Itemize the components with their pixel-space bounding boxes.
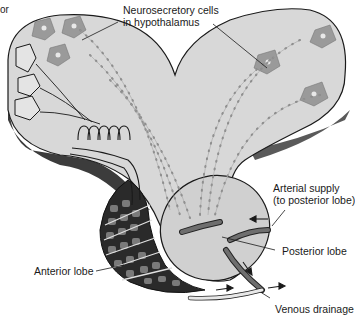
label-neurosecretory-line2: in hypothalamus xyxy=(123,16,219,28)
label-neurosecretory-cells: Neurosecretory cells in hypothalamus xyxy=(123,4,219,28)
label-posterior-lobe: Posterior lobe xyxy=(282,245,347,257)
label-neurosecretory-line1: Neurosecretory cells xyxy=(123,4,219,16)
label-arterial-supply: Arterial supply (to posterior lobe) xyxy=(273,182,355,206)
label-venous-drainage: Venous drainage xyxy=(275,303,354,315)
label-arterial-line1: Arterial supply xyxy=(273,182,355,194)
label-arterial-line2: (to posterior lobe) xyxy=(273,194,355,206)
label-anterior-lobe: Anterior lobe xyxy=(34,265,94,277)
